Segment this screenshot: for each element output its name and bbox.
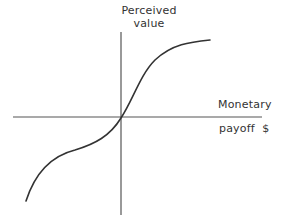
value-function-diagram: Perceived value Monetary payoff $: [0, 0, 283, 223]
x-axis-label-line1: Monetary: [218, 98, 272, 111]
value-curve: [26, 40, 210, 201]
x-axis-label-line2: payoff $: [219, 122, 270, 135]
y-axis-label-line2: value: [114, 17, 184, 30]
diagram-canvas: [0, 0, 283, 223]
y-axis-label-line1: Perceived: [114, 4, 184, 17]
